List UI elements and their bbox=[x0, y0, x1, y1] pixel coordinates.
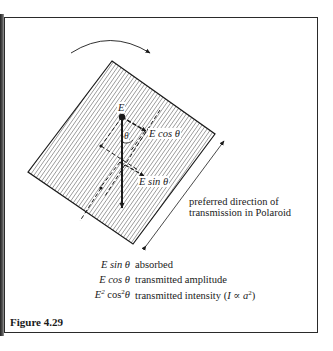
preferred-direction-line2: transmission in Polaroid bbox=[189, 208, 291, 219]
desc-close: ) bbox=[252, 290, 256, 301]
legend-row-amplitude: E cos θ transmitted amplitude bbox=[40, 274, 300, 289]
e-cos-theta-label: E cos θ bbox=[148, 128, 181, 139]
preferred-direction-label: preferred direction of transmission in P… bbox=[189, 197, 291, 218]
clockwise-rotation-arrow-icon bbox=[71, 41, 150, 54]
theta-label: θ bbox=[124, 131, 129, 142]
legend-desc: absorbed bbox=[135, 259, 173, 270]
preferred-direction-line1: preferred direction of bbox=[189, 197, 291, 208]
legend-expr: E sin θ bbox=[40, 259, 130, 270]
legend-expr: E cos θ bbox=[40, 274, 130, 285]
expr-mid: cos bbox=[105, 289, 122, 300]
e-vector-label: E bbox=[117, 102, 125, 113]
desc-math: I ∝ a bbox=[227, 290, 248, 301]
legend-desc: transmitted amplitude bbox=[135, 274, 227, 285]
legend-row-absorbed: E sin θ absorbed bbox=[40, 259, 300, 274]
legend-expr: E2 cos2θ bbox=[40, 289, 130, 300]
desc-text: transmitted intensity ( bbox=[135, 290, 227, 301]
figure-caption: Figure 4.29 bbox=[10, 316, 63, 328]
legend: E sin θ absorbed E cos θ transmitted amp… bbox=[40, 259, 300, 304]
e-sin-theta-label: E sin θ bbox=[138, 176, 169, 187]
expr-end: θ bbox=[125, 289, 130, 300]
legend-row-intensity: E2 cos2θ transmitted intensity (I ∝ a2) bbox=[40, 289, 300, 304]
legend-desc: transmitted intensity (I ∝ a2) bbox=[135, 289, 255, 301]
